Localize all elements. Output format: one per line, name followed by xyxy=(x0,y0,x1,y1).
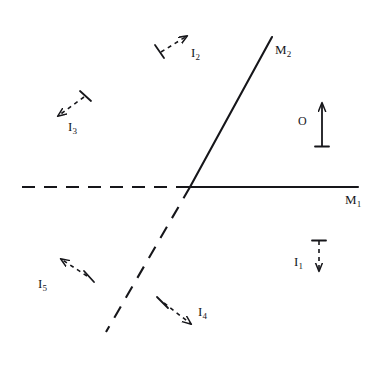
label-object-o: O xyxy=(298,114,307,129)
label-image-i4: I4 xyxy=(198,304,207,321)
image-i2-shaft xyxy=(161,36,187,52)
image-arrow-i5 xyxy=(61,259,94,282)
label-i4-subscript: 4 xyxy=(203,311,208,321)
label-image-i5: I5 xyxy=(38,276,47,293)
label-image-i2: I2 xyxy=(191,45,200,62)
image-arrow-i4 xyxy=(157,297,191,324)
mirror-m2-dashed-extension xyxy=(106,187,190,332)
image-i4-tail-bar xyxy=(157,297,168,308)
label-i3-subscript: 3 xyxy=(73,126,78,136)
optics-diagram-canvas: M1 M2 O I1 I2 I3 I4 I5 xyxy=(0,0,383,376)
label-m1-subscript: 1 xyxy=(357,199,362,209)
label-image-i3: I3 xyxy=(68,119,77,136)
mirror-m2-solid xyxy=(190,37,272,187)
image-i5-tail-bar xyxy=(84,271,94,282)
image-arrow-i2 xyxy=(155,36,187,58)
label-o-text: O xyxy=(298,114,307,128)
image-arrow-i3 xyxy=(58,91,91,116)
image-i3-shaft xyxy=(58,97,84,116)
label-mirror-m2: M2 xyxy=(275,42,291,59)
label-i2-subscript: 2 xyxy=(196,52,201,62)
object-arrow-o xyxy=(315,103,329,147)
label-m1-text: M xyxy=(345,192,357,207)
label-image-i1: I1 xyxy=(294,254,303,271)
label-mirror-m1: M1 xyxy=(345,192,361,209)
label-i1-subscript: 1 xyxy=(299,261,304,271)
image-i5-shaft xyxy=(61,259,87,276)
image-i4-shaft xyxy=(164,303,191,324)
label-i5-subscript: 5 xyxy=(43,283,48,293)
image-arrow-i1 xyxy=(312,241,326,272)
label-m2-text: M xyxy=(275,42,287,57)
label-m2-subscript: 2 xyxy=(287,49,292,59)
